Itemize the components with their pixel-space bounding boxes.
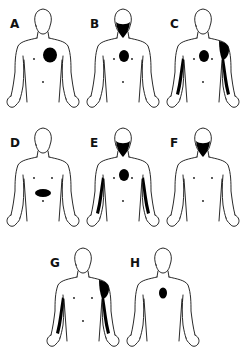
pain-regions [196, 141, 210, 157]
torso-outline [83, 4, 163, 119]
pain-regions [35, 189, 51, 197]
torso-outline [163, 4, 243, 119]
figure-panel-d: D [3, 123, 83, 238]
torso-outline [163, 123, 243, 238]
figure-panel-f: F [163, 123, 243, 238]
figure-panel-h: H [123, 243, 203, 355]
back-view-outline [123, 243, 203, 355]
pain-regions [116, 22, 130, 62]
torso-outline [3, 123, 83, 238]
figure-panel-g: G [43, 243, 123, 355]
pain-regions [96, 141, 150, 214]
torso-outline [43, 243, 123, 355]
figure-panel-c: C [163, 4, 243, 119]
figure-panel-e: E [83, 123, 163, 238]
pain-regions [159, 288, 167, 299]
torso-outline [3, 4, 83, 119]
figure-panel-b: B [83, 4, 163, 119]
figure-panel-a: A [3, 4, 83, 119]
torso-outline [83, 123, 163, 238]
pain-regions [43, 48, 57, 63]
